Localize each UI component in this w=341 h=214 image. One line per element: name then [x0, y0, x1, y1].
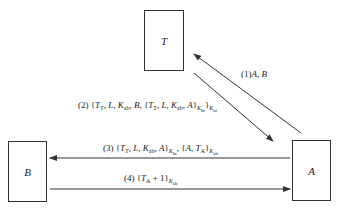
- message-2-label: (2) {TT, L, Kab, B, {TT, L, Kab, A}Kbt}K…: [78, 101, 217, 113]
- node-a-label: A: [308, 165, 315, 177]
- message-1-label: (1)A, B: [241, 70, 267, 79]
- message-4-step: (4): [124, 173, 135, 183]
- message-1-step: (1): [241, 69, 252, 79]
- node-b-label: B: [24, 166, 31, 178]
- node-a: A: [292, 140, 331, 201]
- node-b: B: [8, 141, 47, 202]
- message-2-step: (2): [78, 100, 89, 110]
- protocol-diagram: T B A (1)A, B (2) {TT, L, Kab, B, {TT, L…: [0, 0, 341, 214]
- message-3-step: (3): [103, 143, 114, 153]
- node-t-label: T: [161, 35, 167, 47]
- node-t: T: [144, 10, 184, 71]
- message-1-body: A, B: [252, 69, 268, 79]
- message-3-label: (3) {TT, L, Kab, A}Kbt, {A, TA}Kab: [103, 144, 218, 156]
- arrow-1-a-to-t: [194, 54, 301, 133]
- message-4-label: (4) {TA + 1}Kab: [124, 174, 178, 186]
